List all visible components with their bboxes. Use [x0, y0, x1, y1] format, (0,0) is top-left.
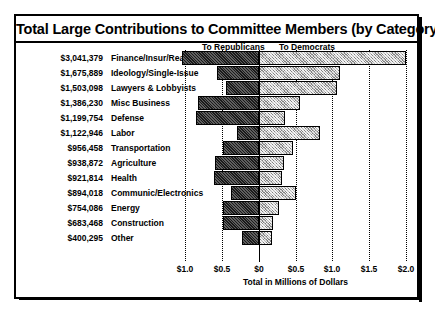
row-amount-label: $1,199,754 [26, 111, 103, 126]
bar-segment-republicans [198, 96, 258, 110]
bar-row [185, 141, 406, 156]
bar-series [185, 50, 406, 246]
bar-segment-republicans [223, 216, 259, 230]
bar-row [185, 96, 406, 111]
row-amount-label: $956,458 [26, 141, 103, 156]
bar-segment-democrats [259, 186, 297, 200]
x-tick-label: $1.0 [324, 264, 341, 274]
row-category-label: Agriculture [111, 156, 156, 171]
row-amount-label: $1,675,889 [26, 66, 103, 81]
bar-row [185, 201, 406, 216]
bar-segment-republicans [217, 66, 258, 80]
row-amount-label: $938,872 [26, 156, 103, 171]
row-amount-label: $894,018 [26, 186, 103, 201]
row-category-label: Health [111, 171, 137, 186]
bar-segment-republicans [226, 81, 258, 95]
plot-area [185, 50, 406, 262]
row-amount-label: $400,295 [26, 231, 103, 246]
bar-segment-republicans [242, 231, 258, 245]
row-category-label: Lawyers & Lobbyists [111, 81, 196, 96]
bar-row [185, 111, 406, 126]
row-amount-label: $1,386,230 [26, 96, 103, 111]
x-axis-title: Total in Millions of Dollars [185, 277, 406, 287]
bar-segment-republicans [223, 141, 259, 155]
row-category-label: Construction [111, 216, 164, 231]
x-tick-label: $1.5 [361, 264, 378, 274]
bar-segment-republicans [182, 51, 259, 65]
gridline-0 [259, 50, 260, 262]
x-tick-label: $0.5 [214, 264, 231, 274]
row-category-label: Misc Business [111, 96, 170, 111]
bar-segment-democrats [259, 66, 341, 80]
bar-segment-democrats [259, 141, 294, 155]
row-category-label: Defense [111, 111, 144, 126]
row-category-label: Labor [111, 126, 135, 141]
bar-segment-republicans [215, 156, 258, 170]
row-amount-label: $683,468 [26, 216, 103, 231]
x-tick-label: $0 [254, 264, 263, 274]
bar-segment-democrats [259, 216, 274, 230]
bar-row [185, 156, 406, 171]
row-amount-label: $3,041,379 [26, 51, 103, 66]
bar-segment-republicans [214, 171, 258, 185]
x-tick-label: $0.5 [288, 264, 305, 274]
bar-segment-democrats [259, 126, 320, 140]
bar-segment-democrats [259, 96, 300, 110]
bar-row [185, 51, 406, 66]
row-amount-label: $921,814 [26, 171, 103, 186]
row-amount-label: $1,122,946 [26, 126, 103, 141]
x-tick-label: $1.0 [177, 264, 194, 274]
chart-figure: Total Large Contributions to Committee M… [14, 14, 419, 299]
row-amount-label: $754,086 [26, 201, 103, 216]
bar-row [185, 216, 406, 231]
figure-shadow [419, 17, 422, 302]
chart-title: Total Large Contributions to Committee M… [16, 21, 417, 37]
bar-row [185, 186, 406, 201]
bar-segment-republicans [196, 111, 259, 125]
bar-segment-republicans [231, 186, 259, 200]
bar-segment-democrats [259, 156, 285, 170]
bar-segment-democrats [259, 51, 406, 65]
row-category-label: Transportation [111, 141, 171, 156]
bar-row [185, 231, 406, 246]
bar-segment-democrats [259, 171, 283, 185]
bar-row [185, 126, 406, 141]
row-category-label: Other [111, 231, 134, 246]
bar-segment-democrats [259, 111, 286, 125]
gridline-20 [406, 50, 407, 262]
row-category-label: Energy [111, 201, 140, 216]
bar-segment-democrats [259, 231, 272, 245]
bar-row [185, 171, 406, 186]
bar-segment-republicans [223, 201, 258, 215]
bar-segment-democrats [259, 81, 337, 95]
bar-row [185, 81, 406, 96]
bar-segment-democrats [259, 201, 279, 215]
bar-segment-republicans [237, 126, 258, 140]
bar-row [185, 66, 406, 81]
x-tick-label: $2.0 [398, 264, 415, 274]
row-amount-label: $1,503,098 [26, 81, 103, 96]
